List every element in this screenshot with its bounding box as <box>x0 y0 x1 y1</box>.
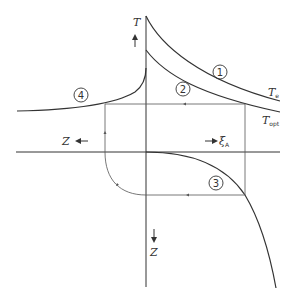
arrow-marker-left <box>104 131 107 134</box>
arrow-marker-top <box>183 103 186 106</box>
svg-text:3: 3 <box>213 178 219 189</box>
curve-3-marker: 3 <box>209 176 223 190</box>
construction-curve-left <box>105 152 146 195</box>
curve-1-marker: 1 <box>213 65 227 79</box>
label-topt: Topt <box>262 114 280 128</box>
curve-2-marker: 2 <box>176 82 190 96</box>
axis-label-z-down: Z <box>149 246 158 259</box>
curve-3 <box>146 152 276 288</box>
curve-4-marker: 4 <box>74 88 88 102</box>
figure-caption-cutoff <box>0 297 291 304</box>
arrow-marker-bottom <box>186 194 189 197</box>
svg-text:2: 2 <box>180 84 186 95</box>
svg-text:1: 1 <box>217 67 223 78</box>
curve-1-te <box>146 16 280 101</box>
curve-2-topt <box>146 50 280 112</box>
label-te: Te <box>268 86 279 99</box>
axis-label-z-left: Z <box>61 135 70 148</box>
axis-label-xi: ξA <box>219 135 230 148</box>
axis-label-t: T <box>133 16 142 29</box>
svg-text:4: 4 <box>78 90 84 101</box>
diagram-canvas: T ξA Z Z Te Topt 1 2 3 4 <box>0 0 291 304</box>
